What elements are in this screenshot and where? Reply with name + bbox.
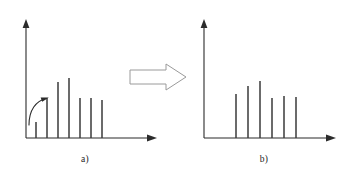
block-arrow-right-icon [130,64,186,90]
panel-b-caption: b) [260,154,268,165]
curved-pointer-arrow-icon [29,99,46,126]
panel-b-y-axis-arrowhead-icon [201,19,208,28]
panel-b-stems [236,81,296,138]
panel-a-caption: a) [81,154,89,165]
panel-b-x-axis-arrowhead-icon [326,135,336,142]
figure-svg: a) b) [0,0,355,178]
panel-a-y-axis-arrowhead-icon [23,19,30,28]
panel-a-callout-arrow [29,97,49,125]
panel-b: b) [201,19,336,165]
transform-block-arrow [130,64,186,90]
panel-a-x-axis-arrowhead-icon [147,135,157,142]
figure-container: a) b) [0,0,355,178]
panel-a-stems [36,78,102,138]
panel-a: a) [23,19,157,165]
